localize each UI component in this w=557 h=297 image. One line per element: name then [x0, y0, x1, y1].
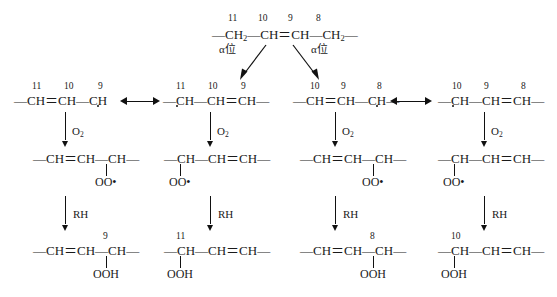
radical-3-formula: —CH＝CH—CH— [293, 94, 399, 107]
oxygen-label-col-4: O2 [491, 126, 503, 139]
reaction-scheme-canvas: 11 10 9 8 —CH2—CH＝CH—CH2— α位 α位 11 10 9 … [0, 0, 557, 297]
radical-4-locant-9: 9 [484, 82, 489, 92]
top-locant-10: 10 [258, 14, 268, 24]
peroxy-2-substituent: OO• [169, 176, 191, 188]
top-locant-9: 9 [288, 14, 293, 24]
radical-2-locant-10: 10 [208, 82, 218, 92]
hydroperoxide-2-locant: 11 [176, 232, 185, 242]
radical-4-locant-8: 8 [521, 82, 526, 92]
radical-2-locant-9: 9 [241, 82, 246, 92]
resonance-arrow-2 [390, 97, 432, 106]
peroxy-1-formula: —CH＝CH—CH— [33, 152, 139, 165]
radical-2-locant-11: 11 [176, 82, 185, 92]
radical-4-locant-10: 10 [452, 82, 462, 92]
hydroperoxide-1-locant: 9 [103, 232, 108, 242]
alpha-arrow-right [290, 44, 322, 82]
hydroperoxide-4-substituent: OOH [441, 268, 467, 280]
top-structure-formula: —CH2—CH＝CH—CH2— [212, 28, 358, 43]
rh-label-col-3: RH [343, 209, 358, 220]
oxygen-label-col-2: O2 [217, 126, 229, 139]
oxygen-label-col-1: O2 [72, 126, 84, 139]
radical-1-locant-9: 9 [98, 82, 103, 92]
peroxy-1-substituent: OO• [95, 176, 117, 188]
hydroperoxide-4-locant: 10 [451, 232, 461, 242]
top-locant-11: 11 [228, 14, 237, 24]
alpha-label-left: α位 [219, 44, 236, 55]
radical-1-locant-10: 10 [64, 82, 74, 92]
top-locant-8: 8 [316, 14, 321, 24]
hydroperoxide-3-locant: 8 [370, 232, 375, 242]
hydroperoxide-1-formula: —CH＝CH—CH— [33, 244, 139, 257]
rh-label-col-2: RH [218, 209, 233, 220]
peroxy-3-formula: —CH＝CH—CH— [300, 152, 406, 165]
oxygen-label-col-3: O2 [342, 126, 354, 139]
rh-label-col-4: RH [492, 209, 507, 220]
peroxy-3-substituent: OO• [362, 176, 384, 188]
radical-2-formula: —CH—CH＝CH— [163, 94, 269, 107]
resonance-arrow-1 [120, 97, 160, 106]
hydroperoxide-3-substituent: OOH [360, 268, 386, 280]
peroxy-4-substituent: OO• [443, 176, 465, 188]
alpha-arrow-left [238, 44, 268, 82]
hydroperoxide-2-substituent: OOH [167, 268, 193, 280]
radical-1-locant-11: 11 [32, 82, 41, 92]
radical-3-locant-9: 9 [341, 82, 346, 92]
radical-3-locant-8: 8 [377, 82, 382, 92]
radical-3-locant-10: 10 [310, 82, 320, 92]
radical-1-formula: —CH＝CH—CH [14, 94, 107, 107]
rh-label-col-1: RH [73, 209, 88, 220]
hydroperoxide-3-formula: —CH＝CH—CH— [300, 244, 406, 257]
hydroperoxide-1-substituent: OOH [93, 268, 119, 280]
